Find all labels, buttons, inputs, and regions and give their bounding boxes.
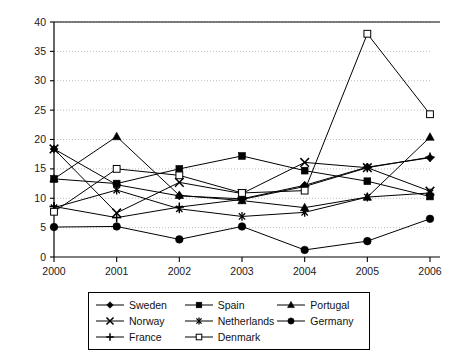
chart-legend: SwedenSpainPortugalNorwayNetherlandsGerm… bbox=[88, 292, 370, 350]
legend-marker-sweden-icon bbox=[95, 298, 125, 312]
x-tick-label-2000: 2000 bbox=[42, 265, 66, 277]
x-tick-label-2004: 2004 bbox=[293, 265, 317, 277]
data-point-spain-2005 bbox=[364, 178, 371, 185]
legend-marker-france-icon bbox=[95, 330, 125, 344]
data-point-denmark-2002 bbox=[176, 172, 183, 179]
legend-entry-denmark[interactable]: Denmark bbox=[184, 329, 275, 345]
legend-marker-germany-icon bbox=[276, 314, 306, 328]
data-point-germany-2003 bbox=[238, 223, 246, 231]
y-tick-label-25: 25 bbox=[34, 104, 46, 116]
data-point-spain-2004 bbox=[301, 167, 308, 174]
y-tick-label-5: 5 bbox=[40, 221, 46, 233]
data-point-denmark-2000 bbox=[51, 208, 58, 215]
legend-label-netherlands: Netherlands bbox=[218, 316, 275, 327]
data-point-france-2006 bbox=[425, 153, 434, 162]
data-point-france-2002 bbox=[175, 202, 184, 211]
data-point-denmark-2004 bbox=[301, 187, 308, 194]
legend-entry-germany[interactable]: Germany bbox=[276, 313, 363, 329]
data-point-germany-2002 bbox=[176, 236, 184, 244]
data-point-denmark-2006 bbox=[427, 111, 434, 118]
y-tick-label-35: 35 bbox=[34, 45, 46, 57]
legend-entry-netherlands[interactable]: Netherlands bbox=[184, 313, 275, 329]
x-tick-label-2003: 2003 bbox=[230, 265, 254, 277]
x-tick-label-2005: 2005 bbox=[356, 265, 380, 277]
x-tick-label-2001: 2001 bbox=[105, 265, 129, 277]
legend-entry-portugal[interactable]: Portugal bbox=[276, 297, 363, 313]
line-chart-figure: 0510152025303540 20002001200220032004200… bbox=[0, 0, 461, 363]
series-denmark bbox=[51, 30, 434, 215]
data-point-norway-2002 bbox=[175, 178, 184, 187]
legend-label-france: France bbox=[129, 332, 162, 343]
legend-marker-spain-icon bbox=[184, 298, 214, 312]
data-point-france-2001 bbox=[112, 213, 121, 222]
y-axis-tick-labels: 0510152025303540 bbox=[34, 16, 46, 263]
legend-label-portugal: Portugal bbox=[310, 300, 349, 311]
legend-marker-portugal-icon bbox=[276, 298, 306, 312]
legend-label-denmark: Denmark bbox=[218, 332, 261, 343]
data-point-spain-2002 bbox=[176, 165, 183, 172]
data-point-spain-2003 bbox=[239, 153, 246, 160]
legend-entry-france[interactable]: France bbox=[95, 329, 182, 345]
y-tick-label-30: 30 bbox=[34, 74, 46, 86]
data-point-netherlands-2001 bbox=[113, 186, 119, 195]
legend-label-spain: Spain bbox=[218, 300, 245, 311]
data-point-denmark-2003 bbox=[239, 190, 246, 197]
y-tick-label-15: 15 bbox=[34, 162, 46, 174]
legend-entry-sweden[interactable]: Sweden bbox=[95, 297, 182, 313]
legend-entry-norway[interactable]: Norway bbox=[95, 313, 182, 329]
data-point-denmark-2005 bbox=[364, 30, 371, 37]
x-axis-tick-labels: 2000200120022003200420052006 bbox=[42, 265, 442, 277]
legend-marker-netherlands-icon bbox=[184, 314, 214, 328]
x-tick-label-2006: 2006 bbox=[418, 265, 442, 277]
data-point-portugal-2006 bbox=[426, 133, 434, 141]
data-point-germany-2001 bbox=[113, 223, 121, 231]
y-tick-label-20: 20 bbox=[34, 133, 46, 145]
y-tick-label-0: 0 bbox=[40, 251, 46, 263]
legend-marker-denmark-icon bbox=[184, 330, 214, 344]
data-point-denmark-2001 bbox=[113, 165, 120, 172]
x-tick-label-2002: 2002 bbox=[168, 265, 192, 277]
legend-label-germany: Germany bbox=[310, 316, 353, 327]
data-point-portugal-2001 bbox=[112, 132, 120, 140]
series-line-france bbox=[54, 157, 430, 218]
data-point-germany-2004 bbox=[301, 246, 309, 254]
data-point-germany-2005 bbox=[364, 237, 372, 245]
y-tick-label-10: 10 bbox=[34, 192, 46, 204]
legend-label-sweden: Sweden bbox=[129, 300, 167, 311]
legend-label-norway: Norway bbox=[129, 316, 165, 327]
data-series-group bbox=[49, 30, 434, 253]
y-tick-label-40: 40 bbox=[34, 16, 46, 28]
series-line-denmark bbox=[54, 34, 430, 212]
legend-marker-norway-icon bbox=[95, 314, 125, 328]
data-point-germany-2000 bbox=[50, 223, 58, 231]
data-point-germany-2006 bbox=[426, 215, 434, 223]
legend-entry-spain[interactable]: Spain bbox=[184, 297, 275, 313]
